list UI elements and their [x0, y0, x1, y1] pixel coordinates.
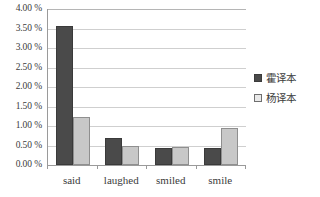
y-axis-tick-label: 4.00 %	[16, 4, 42, 14]
x-axis-label-smiled: smiled	[146, 170, 196, 192]
y-axis-tick-label: 2.50 %	[16, 63, 42, 73]
bar-said-series-1	[56, 26, 73, 165]
legend-label: 霍译本	[266, 73, 296, 84]
bar-smile-series-2	[221, 128, 238, 165]
y-axis-tick-label: 2.00 %	[16, 82, 42, 92]
bar-smiled-series-1	[155, 148, 172, 165]
y-axis-tick-label: 1.50 %	[16, 102, 42, 112]
plot-area	[47, 9, 246, 166]
x-axis-tick	[97, 165, 98, 169]
bars-layer	[48, 9, 246, 165]
x-axis-tick	[196, 165, 197, 169]
legend-item-2[interactable]: 杨译本	[254, 93, 318, 104]
bar-smiled-series-2	[172, 147, 189, 165]
x-axis-tick	[47, 165, 48, 169]
y-axis: 0.00 %0.50 %1.00 %1.50 %2.00 %2.50 %3.00…	[0, 0, 46, 165]
legend-label: 杨译本	[266, 93, 296, 104]
x-axis-label-said: said	[47, 170, 97, 192]
bar-laughed-series-2	[122, 146, 139, 166]
bar-group-laughed	[98, 9, 148, 165]
bar-said-series-2	[73, 117, 90, 165]
y-axis-tick-label: 0.00 %	[16, 160, 42, 170]
bar-smile-series-1	[204, 148, 221, 165]
bar-chart: 0.00 %0.50 %1.00 %1.50 %2.00 %2.50 %3.00…	[0, 0, 320, 197]
x-axis-labels: saidlaughedsmiledsmile	[47, 170, 245, 192]
legend-item-1[interactable]: 霍译本	[254, 73, 318, 84]
bar-group-said	[48, 9, 98, 165]
y-axis-tick-label: 0.50 %	[16, 141, 42, 151]
x-axis-tick	[146, 165, 147, 169]
y-axis-tick-label: 3.00 %	[16, 43, 42, 53]
x-axis-label-smile: smile	[196, 170, 246, 192]
legend: 霍译本杨译本	[254, 73, 318, 112]
x-axis-tick	[245, 165, 246, 169]
bar-laughed-series-1	[105, 138, 122, 165]
legend-swatch-icon	[254, 74, 262, 82]
bar-group-smiled	[147, 9, 197, 165]
x-axis-label-laughed: laughed	[97, 170, 147, 192]
y-axis-tick-label: 1.00 %	[16, 121, 42, 131]
legend-swatch-icon	[254, 94, 262, 102]
bar-group-smile	[197, 9, 247, 165]
y-axis-tick-label: 3.50 %	[16, 24, 42, 34]
